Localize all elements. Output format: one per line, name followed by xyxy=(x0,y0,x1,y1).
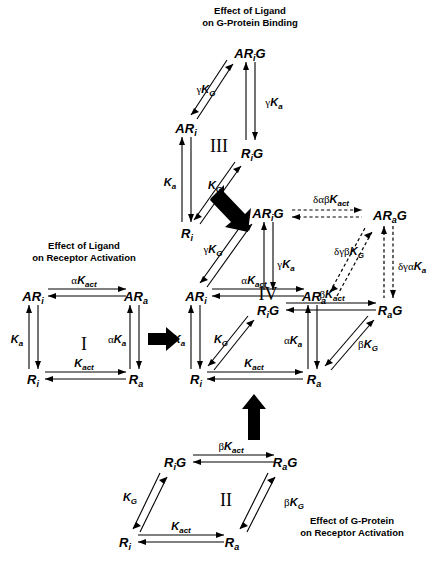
node-RaG-scheme2: RaG xyxy=(273,455,298,472)
rate-label-gamma-Ka: γKa xyxy=(264,96,283,111)
node-RaG-scheme4: RaG xyxy=(378,303,403,320)
node-Ri-scheme1: Ri xyxy=(27,372,39,389)
rate-label-delta-alpha-beta-Kact: δαβKact xyxy=(313,193,349,208)
caption-line: Effect of Ligand xyxy=(214,5,286,16)
caption-ligand-gprotein-binding: Effect of Ligand on G-Protein Binding xyxy=(202,5,298,28)
edge-II-Ri-RiG xyxy=(133,473,167,532)
rate-label-delta-gamma-alpha-Ka: δγαKa xyxy=(398,260,427,275)
scheme-label-II: II xyxy=(220,490,232,510)
edge-III-ARi-Ri xyxy=(179,137,194,222)
rate-label-gamma-KG-scheme4: γKG xyxy=(202,243,222,258)
figure-canvas: Effect of Ligand on G-Protein Binding Ef… xyxy=(0,0,433,567)
node-RiG-scheme4: RiG xyxy=(257,303,279,320)
node-RiG-scheme2: RiG xyxy=(164,455,186,472)
edge-I-ARa-Ra xyxy=(127,305,142,369)
node-ARiG-scheme3: ARiG xyxy=(233,46,265,63)
node-Ri-scheme4: Ri xyxy=(190,372,202,389)
caption-line: Effect of G-Protein xyxy=(310,515,394,526)
rate-label-KG-scheme4: KG xyxy=(214,333,228,348)
rate-label-Ka-scheme1: Ka xyxy=(11,333,24,348)
node-ARa-scheme1: ARa xyxy=(123,289,148,306)
caption-ligand-receptor-activation: Effect of Ligand on Receptor Activation xyxy=(32,240,136,263)
node-Ra-scheme1: Ra xyxy=(129,372,143,389)
edge-IV-ARi-Ri xyxy=(188,305,203,369)
scheme-label-IV: IV xyxy=(259,284,278,304)
edge-IV-RaG-ARaG-dashed xyxy=(330,228,372,296)
caption-gprotein-receptor-activation: Effect of G-Protein on Receptor Activati… xyxy=(300,515,404,538)
rate-label-Kact-scheme2: Kact xyxy=(171,520,191,535)
edge-IV-ARa-Ra xyxy=(305,305,320,369)
rate-label-beta-KG-scheme4: βKG xyxy=(358,338,378,353)
block-arrow-scheme1-to-scheme4 xyxy=(148,327,180,351)
rate-label-alpha-Ka-scheme4: αKa xyxy=(284,334,303,349)
edge-II-Ra-RaG xyxy=(240,473,275,532)
edge-IV-ARiG-ARaG-dashed xyxy=(292,207,362,220)
node-Ra-scheme4: Ra xyxy=(307,372,321,389)
rate-label-Ka-scheme3: Ka xyxy=(164,176,177,191)
scheme-label-III: III xyxy=(210,136,228,156)
rate-label-alpha-Kact-scheme1: αKact xyxy=(71,274,97,289)
scheme-label-I: I xyxy=(81,334,87,354)
rate-label-beta-KG-scheme2: βKG xyxy=(284,496,304,511)
reaction-scheme-diagram: Effect of Ligand on G-Protein Binding Ef… xyxy=(0,0,433,567)
node-ARi-scheme1: ARi xyxy=(21,289,44,306)
scheme-I-group: ARi ARa Ri Ra αKact Ka αKa Kact I xyxy=(11,274,148,389)
rate-label-alpha-Ka-scheme1: αKa xyxy=(108,333,127,348)
edge-III-ARiG-RiG xyxy=(243,62,258,140)
node-Ri-scheme3: Ri xyxy=(181,226,193,243)
node-Ri-scheme2: Ri xyxy=(119,535,131,552)
node-ARiG-scheme4: ARiG xyxy=(251,206,283,223)
node-ARi-scheme4: ARi xyxy=(184,289,207,306)
edge-IV-ARaG-RaG-dashed xyxy=(381,226,396,298)
block-arrow-scheme2-to-scheme4 xyxy=(242,394,266,440)
node-Ra-scheme2: Ra xyxy=(225,535,239,552)
node-RiG-scheme3: RiG xyxy=(241,146,263,163)
rate-label-Kact-scheme4: Kact xyxy=(244,357,264,372)
caption-line: on Receptor Activation xyxy=(32,252,136,263)
edge-I-ARi-Ri xyxy=(26,305,41,369)
rate-label-KG-scheme2: KG xyxy=(123,491,137,506)
edge-IV-RiG-RaG xyxy=(286,300,376,313)
rate-label-gamma-Ka-scheme4: γKa xyxy=(276,258,295,273)
scheme-IV-group: ARiG ARaG ARi ARa RiG RaG Ri Ra γKG γKa … xyxy=(173,193,427,389)
caption-line: on Receptor Activation xyxy=(300,527,404,538)
rate-label-Kact-scheme1: Kact xyxy=(74,357,94,372)
node-ARaG-scheme4: ARaG xyxy=(372,208,407,225)
node-ARi-scheme3: ARi xyxy=(174,121,197,138)
scheme-II-group: RiG RaG Ri Ra βKact KG βKG Kact II xyxy=(119,440,304,552)
rate-label-beta-Kact-scheme2: βKact xyxy=(218,440,243,455)
rate-label-delta-gamma-beta-KG: δγβKG xyxy=(334,245,364,260)
caption-line: on G-Protein Binding xyxy=(202,17,298,28)
rate-label-gamma-KG: γKG xyxy=(195,83,215,98)
caption-line: Effect of Ligand xyxy=(48,240,120,251)
